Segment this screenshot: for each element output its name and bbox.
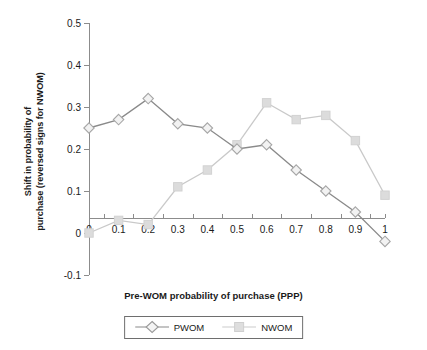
data-point-marker	[144, 220, 152, 228]
legend-marker-square-icon	[222, 320, 256, 334]
chart-figure: Shift in probability of purchase (revers…	[0, 0, 427, 350]
y-axis-tick-label: -0.1	[64, 270, 81, 281]
data-point-marker	[85, 229, 93, 237]
data-point-marker	[203, 166, 211, 174]
y-axis-title-line-2: purchase (reversed signs for NWOM)	[34, 32, 46, 272]
data-point-marker	[321, 186, 331, 196]
y-axis-tick-label: 0.2	[67, 144, 81, 155]
legend-label-pwom: PWOM	[174, 322, 205, 333]
legend-label-nwom: NWOM	[261, 322, 292, 333]
series-line	[89, 103, 385, 233]
chart-legend: PWOM NWOM	[124, 316, 304, 339]
series-pwom	[84, 93, 390, 246]
data-point-marker	[84, 123, 94, 133]
series-nwom	[85, 99, 389, 238]
data-point-marker	[381, 191, 389, 199]
data-point-marker	[174, 183, 182, 191]
series-line	[89, 99, 385, 242]
series-canvas	[89, 23, 385, 275]
legend-marker-diamond-icon	[135, 320, 169, 334]
y-axis-tick-label: 0.3	[67, 102, 81, 113]
data-point-marker	[292, 115, 300, 123]
plot-area: 0.50.40.30.20.10-0.1 00.10.20.30.40.50.6…	[89, 23, 385, 275]
data-point-marker	[351, 136, 359, 144]
y-axis-title: Shift in probability of purchase (revers…	[23, 32, 46, 272]
x-axis-end-tick	[385, 214, 386, 218]
y-axis-tick-label: 0	[75, 228, 81, 239]
data-point-marker	[202, 123, 212, 133]
legend-item-nwom[interactable]: NWOM	[222, 320, 292, 334]
x-axis-title: Pre-WOM probability of purchase (PPP)	[0, 290, 427, 301]
legend-item-pwom[interactable]: PWOM	[135, 320, 205, 334]
y-axis-tick-label: 0.1	[67, 186, 81, 197]
y-axis-title-line-1: Shift in probability of	[23, 32, 35, 272]
data-point-marker	[262, 99, 270, 107]
y-axis-tick-label: 0.5	[67, 18, 81, 29]
data-point-marker	[114, 216, 122, 224]
data-point-marker	[322, 111, 330, 119]
data-point-marker	[113, 114, 123, 124]
y-axis-tick-label: 0.4	[67, 60, 81, 71]
y-axis-tick	[84, 275, 89, 276]
